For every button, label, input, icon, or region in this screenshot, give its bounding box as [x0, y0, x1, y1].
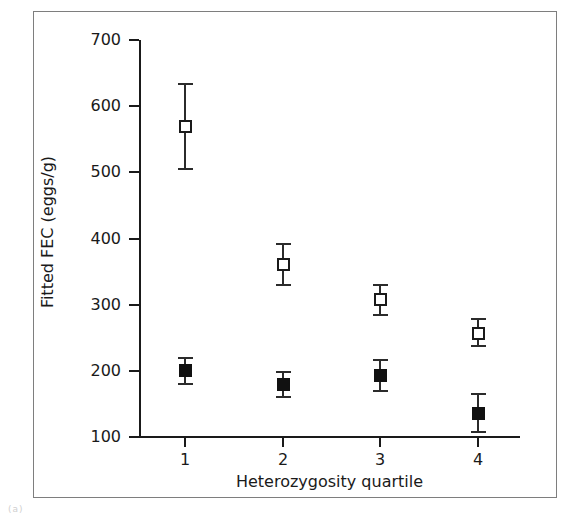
- errorbar-cap-lower: [178, 383, 193, 385]
- marker-filled-square: [179, 364, 192, 377]
- errorbar-cap-lower: [276, 284, 291, 286]
- errorbar-cap-lower: [471, 431, 486, 433]
- x-axis-title: Heterozygosity quartile: [139, 474, 520, 490]
- errorbar-cap-lower: [276, 396, 291, 398]
- y-tick-label-700: 700: [75, 32, 121, 48]
- y-tick-label-400: 400: [75, 231, 121, 247]
- marker-open-square: [277, 258, 290, 271]
- errorbar-cap-upper: [178, 83, 193, 85]
- errorbar-cap-upper: [373, 284, 388, 286]
- marker-filled-square: [374, 369, 387, 382]
- errorbar-cap-upper: [178, 357, 193, 359]
- errorbar-cap-upper: [471, 393, 486, 395]
- y-tick-label-500: 500: [75, 164, 121, 180]
- errorbar-cap-upper: [471, 318, 486, 320]
- caption-fragment: (a): [8, 503, 128, 515]
- plot-area: 100200300400500600700 1234 Fitted FEC (e…: [0, 0, 574, 516]
- y-tick-400: [129, 238, 139, 240]
- errorbar-cap-upper: [276, 243, 291, 245]
- y-axis-spine: [139, 40, 141, 438]
- marker-filled-square: [277, 378, 290, 391]
- errorbar-cap-upper: [373, 359, 388, 361]
- errorbar-cap-lower: [178, 168, 193, 170]
- errorbar-cap-upper: [276, 371, 291, 373]
- y-tick-500: [129, 171, 139, 173]
- y-tick-label-200: 200: [75, 363, 121, 379]
- y-tick-label-100: 100: [75, 429, 121, 445]
- y-tick-label-600: 600: [75, 98, 121, 114]
- x-tick-label-2: 2: [268, 452, 298, 468]
- x-tick-3: [379, 437, 381, 447]
- marker-open-square: [179, 120, 192, 133]
- x-tick-2: [282, 437, 284, 447]
- y-tick-label-300: 300: [75, 297, 121, 313]
- y-tick-200: [129, 370, 139, 372]
- errorbar-cap-lower: [373, 390, 388, 392]
- marker-open-square: [374, 293, 387, 306]
- x-tick-label-4: 4: [463, 452, 493, 468]
- y-axis-title: Fitted FEC (eggs/g): [40, 132, 56, 332]
- marker-open-square: [472, 327, 485, 340]
- y-tick-600: [129, 105, 139, 107]
- errorbar-cap-lower: [471, 345, 486, 347]
- x-tick-label-1: 1: [170, 452, 200, 468]
- x-axis-spine: [139, 436, 520, 438]
- x-tick-4: [477, 437, 479, 447]
- x-tick-label-3: 3: [365, 452, 395, 468]
- y-tick-300: [129, 304, 139, 306]
- y-tick-700: [129, 39, 139, 41]
- y-tick-100: [129, 436, 139, 438]
- figure-panel: 100200300400500600700 1234 Fitted FEC (e…: [0, 0, 574, 516]
- marker-filled-square: [472, 407, 485, 420]
- x-tick-1: [184, 437, 186, 447]
- errorbar-cap-lower: [373, 314, 388, 316]
